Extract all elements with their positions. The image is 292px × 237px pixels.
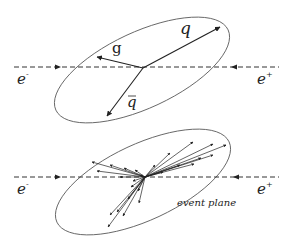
jet-label-g: g	[112, 39, 122, 57]
positron-label: e+	[257, 70, 273, 88]
jet-label-q: q	[180, 18, 191, 38]
positron-label: e+	[257, 180, 273, 198]
diagram-canvas: qgq e- e+ e- e+ event plane	[0, 0, 292, 237]
event-plane-ellipse-bottom	[41, 107, 245, 237]
particle-track	[92, 162, 145, 177]
three-jet-diagram: qgq e- e+	[14, 0, 279, 145]
electron-arrow-icon	[55, 65, 61, 70]
positron-arrow-icon	[231, 65, 237, 70]
electron-arrow-icon	[55, 175, 61, 180]
event-plane-ellipse-top	[40, 0, 244, 145]
particle-track	[145, 144, 213, 177]
jet-arrow-g	[97, 57, 143, 68]
particle-track	[145, 142, 193, 177]
positron-arrow-icon	[233, 175, 239, 180]
event-plane-label: event plane	[177, 197, 236, 208]
jet-arrow-qbar	[107, 68, 143, 116]
particle-track	[110, 177, 145, 215]
electron-label: e-	[17, 180, 29, 198]
physics-event-diagram: qgq e- e+ e- e+ event plane	[0, 0, 292, 237]
electron-label: e-	[17, 70, 29, 88]
multi-track-diagram: e- e+ event plane	[14, 107, 279, 237]
particle-track	[110, 165, 145, 177]
particle-track	[145, 145, 226, 177]
